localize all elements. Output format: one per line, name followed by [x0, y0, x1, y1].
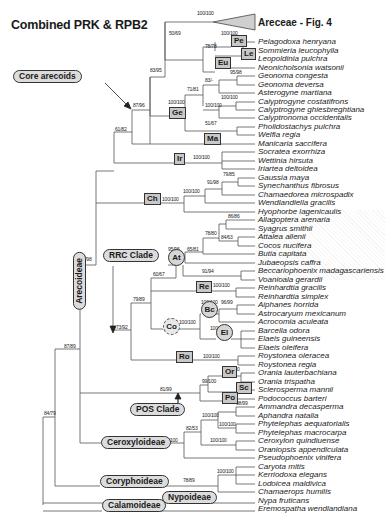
- taxon-label: Kerriodoxa elegans: [258, 471, 327, 479]
- clade-code-le: Le: [241, 48, 256, 60]
- support-value: 82/53: [186, 426, 198, 431]
- support-value: 73/92: [116, 325, 128, 330]
- clade-code-el: El: [216, 324, 233, 341]
- support-value: 84/63: [221, 235, 233, 240]
- taxon-label: Geonoma congesta: [258, 72, 328, 80]
- taxon-label: Reinhardtia gracilis: [258, 284, 326, 292]
- support-value: 81/99: [160, 387, 172, 392]
- taxon-label: Welfia regia: [258, 131, 300, 139]
- taxon-label: Asterogyne martiana: [258, 89, 332, 97]
- clade-label-ceroxyloideae: Ceroxyloideae: [101, 436, 171, 449]
- support-value: 84/79: [44, 411, 56, 416]
- clade-code-pe: Pe: [231, 35, 247, 47]
- support-value: 61/82: [115, 127, 127, 132]
- support-value: 100/100: [193, 155, 210, 160]
- support-value: 79/89: [133, 297, 145, 302]
- clade-label-arecoideae: Arecoideae: [73, 252, 86, 310]
- support-value: 100/100: [168, 100, 185, 105]
- support-value: 50/69: [169, 31, 181, 36]
- taxon-label: Phytelephas aequatorialis: [258, 420, 350, 428]
- support-value: 100/100: [205, 103, 222, 108]
- support-value: 78/80: [205, 231, 217, 236]
- taxon-label: Iriartea deltoidea: [258, 165, 318, 173]
- clade-label-rrc-clade: RRC Clade: [103, 249, 159, 262]
- support-value: 65/81: [187, 247, 199, 252]
- taxon-label: Ammandra decasperma: [258, 403, 343, 411]
- taxon-label: Calyptronoma occidentalis: [258, 114, 352, 122]
- clade-code-at: At: [168, 249, 185, 266]
- support-value: 100/100: [213, 283, 230, 288]
- taxon-label: Aiphanes horrida: [258, 301, 318, 309]
- clade-code-ro: Ro: [176, 351, 193, 363]
- support-value: 100/100: [162, 197, 179, 202]
- support-value: 100/100: [217, 469, 234, 474]
- support-value: 100/100: [179, 320, 196, 325]
- support-value: 91/94: [202, 269, 214, 274]
- taxon-label: Attalea allenii: [258, 233, 306, 241]
- taxon-label: Sclerosperma mannii: [258, 386, 333, 394]
- taxon-label: Butia capitata: [258, 250, 306, 258]
- taxon-label: Ceroxylon quindiuense: [258, 437, 339, 445]
- collapsed-clade-triangle: [213, 14, 255, 30]
- figure-title: Combined PRK & RPB2: [11, 18, 148, 32]
- support-value: 100/100: [203, 354, 220, 359]
- taxon-label: Eremospatha wendlandiana: [258, 505, 357, 513]
- taxon-label: Acrocomia aculeata: [258, 318, 328, 326]
- support-value: 83/-: [205, 78, 213, 83]
- clade-code-po: Po: [222, 392, 238, 404]
- clade-code-ge: Ge: [169, 107, 186, 119]
- support-value: 87/96: [133, 103, 145, 108]
- clade-label-core-arecoids: Core arecoids: [13, 70, 82, 83]
- support-value: 91/98: [207, 180, 219, 185]
- support-value: 83/95: [150, 68, 162, 73]
- support-value: 96/99: [221, 300, 233, 305]
- taxon-label: Socratea exorrhiza: [258, 148, 325, 156]
- taxon-label: Leopoldinia pulchra: [258, 55, 327, 63]
- support-value: 100/100: [219, 422, 236, 427]
- collapsed-clade-label: Areceae - Fig. 4: [258, 17, 332, 28]
- taxon-label: Pelagodoxa henryana: [258, 38, 336, 46]
- clade-code-re: Re: [196, 281, 212, 293]
- taxon-label: Pseudophoenix vinifera: [258, 454, 341, 462]
- clade-label-coryphoideae: Coryphoideae: [100, 475, 169, 488]
- support-value: 100/100: [183, 189, 200, 194]
- support-value: 78/78: [205, 44, 217, 49]
- clade-code-bc: Bc: [201, 301, 218, 318]
- clade-code-ir: Ir: [174, 153, 185, 165]
- taxon-label: Allagoptera arenaria: [258, 216, 330, 224]
- taxon-label: Beccariophoenix madagascariensis: [258, 267, 384, 275]
- support-value: 71/81: [187, 87, 199, 92]
- taxon-label: Synechanthus fibrosus: [258, 182, 339, 190]
- taxon-label: Chamaerops humilis: [258, 488, 331, 496]
- support-value: 100/100: [197, 11, 214, 16]
- clade-label-calamoideae: Calamoideae: [102, 499, 166, 512]
- clade-label-nypoideae: Nypoideae: [162, 491, 217, 504]
- support-value: 100/100: [202, 413, 219, 418]
- taxon-label: Roystonea oleracea: [258, 352, 329, 360]
- clade-code-co: Co: [163, 318, 180, 335]
- taxon-label: Wendlandiella gracilis: [258, 199, 335, 207]
- taxon-label: Orania lauterbachiana: [258, 369, 337, 377]
- clade-code-sc: Sc: [236, 382, 252, 394]
- support-value: 100/100: [210, 438, 227, 443]
- clade-code-ch: Ch: [144, 193, 161, 205]
- support-value: 95/98: [230, 70, 242, 75]
- support-value: 79/85: [223, 172, 235, 177]
- support-value: 100/100: [221, 95, 238, 100]
- clade-code-eu: Eu: [215, 57, 231, 69]
- support-value: 78/89: [183, 478, 195, 483]
- support-value: 51/67: [205, 121, 217, 126]
- taxon-label: Elaeis guineensis: [258, 335, 320, 343]
- support-value: 86/86: [228, 214, 240, 219]
- clade-label-pos-clade: POS Clade: [130, 403, 185, 416]
- support-value: 87/89: [64, 344, 76, 349]
- support-value: 99/100: [202, 379, 216, 384]
- clade-code-ma: Ma: [204, 133, 221, 145]
- support-value: 60/67: [153, 272, 165, 277]
- clade-code-or: Or: [222, 366, 237, 378]
